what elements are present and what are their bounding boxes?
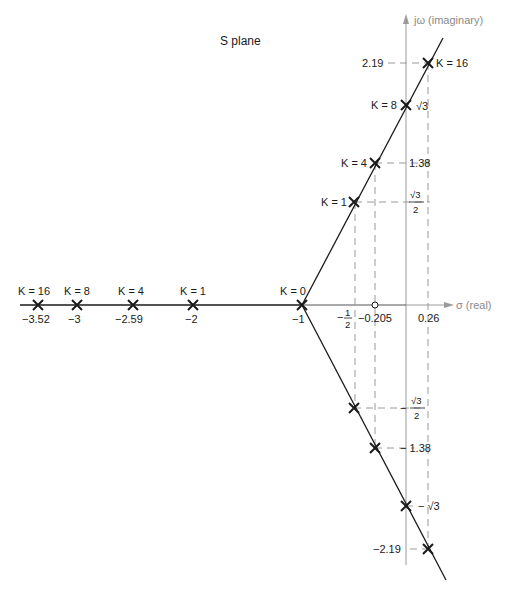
crossing-label: 0.26: [418, 312, 439, 324]
arrow-right-icon: [444, 302, 454, 308]
value-label: −3.52: [22, 313, 50, 325]
imaginary-axis: jω (imaginary): [403, 14, 483, 565]
value-label: −3: [68, 313, 81, 325]
k-label: K = 1: [321, 196, 347, 208]
half-num: 1: [345, 307, 350, 318]
real-axis: σ (real): [20, 299, 492, 311]
k-label: K = 4: [341, 157, 367, 169]
root-locus-diagram: S plane jω (imaginary) σ (real): [0, 0, 511, 594]
imag-label: − 1.38: [400, 442, 431, 454]
centroid-marker: [372, 302, 378, 308]
value-label: −2: [185, 313, 198, 325]
imag-den: 2: [414, 410, 419, 421]
imag-label: −2.19: [373, 543, 401, 555]
value-label: −2.59: [115, 313, 143, 325]
imaginary-axis-label: jω (imaginary): [413, 14, 483, 26]
imag-label: 1.38: [409, 157, 430, 169]
k-label: K = 8: [64, 285, 90, 297]
imag-label: √3: [416, 100, 428, 112]
k-label: K = 1: [180, 285, 206, 297]
k-label: K = 8: [371, 99, 397, 111]
imag-label: 2.19: [362, 57, 383, 69]
k-label: K = 16: [18, 285, 50, 297]
upper-branch: [302, 38, 443, 305]
imag-num: √3: [410, 189, 421, 200]
locus-branches: [302, 38, 446, 580]
imag-num: √3: [411, 395, 422, 406]
k-label: K = 0: [280, 285, 306, 297]
imag-den: 2: [413, 204, 418, 215]
imag-sign: −: [400, 402, 406, 414]
arrow-up-icon: [403, 14, 409, 24]
half-den: 2: [345, 319, 350, 330]
half-sign: −: [337, 311, 343, 323]
upper-branch-labels: K = 16 2.19 K = 8 √3 K = 4 1.38 K = 1 √3…: [321, 57, 468, 215]
centroid-label: −0.205: [358, 312, 392, 324]
k-label: K = 4: [118, 285, 144, 297]
value-label: −1: [292, 313, 305, 325]
real-axis-label: σ (real): [456, 299, 492, 311]
imag-label: − √3: [418, 500, 440, 512]
k-label: K = 16: [436, 57, 468, 69]
s-plane-title: S plane: [220, 34, 261, 48]
